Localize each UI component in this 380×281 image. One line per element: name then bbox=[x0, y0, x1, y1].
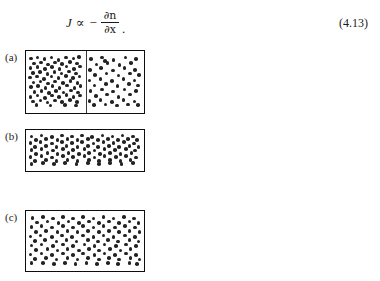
particle-dot bbox=[135, 138, 139, 142]
particle-dot bbox=[89, 57, 93, 61]
particle-dot bbox=[112, 141, 116, 145]
particle-dot bbox=[111, 90, 115, 94]
particle-dot bbox=[113, 253, 117, 257]
particle-dot bbox=[112, 58, 116, 62]
particle-dot bbox=[117, 74, 121, 78]
particle-dot bbox=[128, 220, 132, 224]
particle-dot bbox=[66, 256, 70, 260]
particle-dot bbox=[44, 256, 48, 260]
particle-dot bbox=[43, 238, 47, 242]
particle-dot bbox=[102, 224, 106, 228]
particle-dot bbox=[110, 100, 114, 104]
particle-dot bbox=[126, 137, 130, 141]
particle-dot bbox=[136, 103, 140, 107]
particle-dot bbox=[132, 217, 136, 221]
particle-dot bbox=[81, 224, 85, 228]
particle-dot bbox=[77, 249, 81, 253]
particle-dot bbox=[34, 152, 38, 156]
particle-dot bbox=[30, 135, 34, 139]
particle-dot bbox=[71, 226, 75, 230]
particle-dot bbox=[35, 221, 39, 225]
particle-dot bbox=[104, 103, 108, 107]
particle-dot bbox=[122, 140, 126, 144]
particle-dot bbox=[99, 98, 103, 102]
particle-dot bbox=[117, 95, 121, 99]
equation-number: (4.13) bbox=[339, 6, 368, 40]
particle-dot bbox=[51, 244, 55, 248]
particle-dot bbox=[94, 94, 98, 98]
particle-dot bbox=[34, 230, 38, 234]
particle-dot bbox=[81, 252, 85, 256]
particle-dot bbox=[133, 68, 137, 72]
particle-dot bbox=[116, 84, 120, 88]
particle-dot bbox=[60, 134, 64, 138]
particle-dot bbox=[93, 73, 97, 77]
particle-dot bbox=[100, 88, 104, 92]
particle-dot bbox=[51, 149, 55, 153]
particle-dot bbox=[107, 144, 111, 148]
particle-dot bbox=[76, 145, 80, 149]
particle-dot bbox=[130, 151, 134, 155]
particle-dot bbox=[95, 63, 99, 67]
particle-dot bbox=[103, 154, 107, 158]
particle-dot bbox=[75, 240, 79, 244]
minus-sign: − bbox=[90, 15, 97, 31]
particle-dot bbox=[61, 147, 65, 151]
particle-dot bbox=[44, 158, 48, 162]
panel-b-box bbox=[25, 129, 145, 172]
particle-dot bbox=[103, 147, 107, 151]
particle-dot bbox=[52, 162, 56, 166]
particle-dot bbox=[80, 140, 84, 144]
particle-dot bbox=[103, 243, 107, 247]
particle-dot bbox=[88, 79, 92, 83]
particle-dot bbox=[106, 238, 110, 242]
particle-dot bbox=[89, 89, 93, 93]
particle-dot bbox=[129, 247, 133, 251]
particle-dot bbox=[86, 256, 90, 260]
particle-dot bbox=[70, 141, 74, 145]
particle-dot bbox=[50, 253, 54, 257]
panel-label-b: (b) bbox=[5, 131, 18, 142]
particle-dot bbox=[30, 148, 34, 152]
particle-dot bbox=[81, 215, 85, 219]
particle-dot bbox=[96, 138, 100, 142]
particle-dot bbox=[55, 240, 59, 244]
particle-dot bbox=[77, 152, 81, 156]
equation-expression: J ∝ − ∂n ∂x . bbox=[66, 6, 125, 40]
particle-dot bbox=[117, 221, 121, 225]
particle-dot bbox=[41, 261, 45, 265]
particle-dot bbox=[112, 235, 116, 239]
particle-dot bbox=[29, 235, 33, 239]
particle-dot bbox=[76, 258, 80, 262]
particle-dot bbox=[93, 156, 97, 160]
particle-dot bbox=[44, 137, 48, 141]
particle-dot bbox=[92, 217, 96, 221]
particle-dot bbox=[124, 243, 128, 247]
particle-dot bbox=[102, 215, 106, 219]
particle-dot bbox=[87, 247, 91, 251]
particle-dot bbox=[60, 234, 64, 238]
particle-dot bbox=[117, 230, 121, 234]
particle-dot bbox=[29, 155, 33, 159]
particle-dot bbox=[112, 217, 116, 221]
particle-dot bbox=[98, 152, 102, 156]
particle-dot bbox=[93, 149, 97, 153]
fraction-denominator: ∂x bbox=[102, 23, 118, 35]
particle-dot bbox=[103, 59, 107, 63]
particle-dot bbox=[29, 141, 33, 145]
particle-dot bbox=[108, 161, 112, 165]
particle-dot bbox=[108, 151, 112, 155]
particle-dot bbox=[114, 244, 118, 248]
particle-dot bbox=[126, 103, 130, 107]
particle-dot bbox=[92, 142, 96, 146]
particle-dot bbox=[71, 155, 75, 159]
particle-dot bbox=[122, 98, 126, 102]
proportional-operator: ∝ bbox=[76, 15, 85, 31]
fraction-numerator: ∂n bbox=[102, 10, 119, 22]
particle-dot bbox=[116, 240, 120, 244]
particle-dot bbox=[97, 162, 101, 166]
particle-dot bbox=[86, 238, 90, 242]
panel-a-box bbox=[25, 50, 145, 114]
particle-dot bbox=[122, 77, 126, 81]
particle-dot bbox=[103, 252, 107, 256]
